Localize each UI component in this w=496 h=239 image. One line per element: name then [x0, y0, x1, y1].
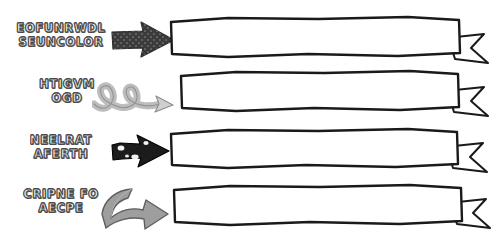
row-label-line-1: HTIGVM [39, 78, 95, 92]
row-label-line-2: AECPE [39, 202, 84, 216]
row-label-line-1: EOFUNRWDL [16, 22, 105, 36]
row-label-line-1: CRIPNE FO [23, 188, 98, 202]
row-label-line-2: OGD [52, 92, 83, 106]
row-label-line-1: NEELRAT [30, 134, 92, 148]
diagram-row: CRIPNE FO AECPE [0, 174, 496, 230]
block-arrow-right-dotted-icon [110, 20, 176, 60]
row-label-line-2: SEUNCOLOR [18, 36, 103, 50]
row-label-line-2: AFERTH [34, 148, 89, 162]
row-label: NEELRAT AFERTH [2, 120, 120, 176]
ribbon-banner-icon [178, 66, 494, 122]
curly-loop-arrow-right-icon [92, 74, 176, 118]
rough-arrow-right-icon [110, 132, 172, 170]
diagram-row: EOFUNRWDL SEUNCOLOR [0, 8, 496, 64]
ribbon-banner-icon [168, 124, 494, 180]
diagram-row: NEELRAT AFERTH [0, 120, 496, 176]
ribbon-banner-icon [168, 178, 494, 236]
row-label: EOFUNRWDL SEUNCOLOR [2, 8, 120, 64]
curved-swoosh-arrow-right-icon [98, 184, 172, 232]
diagram-canvas: EOFUNRWDL SEUNCOLOR [0, 0, 496, 239]
diagram-row: HTIGVM OGD [0, 64, 496, 120]
ribbon-banner-icon [168, 10, 494, 68]
